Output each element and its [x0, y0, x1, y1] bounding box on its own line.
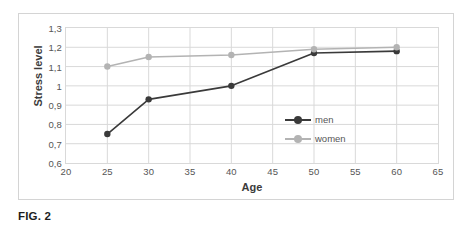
- legend-label-women: women: [315, 133, 346, 144]
- y-tick-label: 1,3: [48, 23, 62, 34]
- legend-item-women[interactable]: women: [285, 129, 369, 148]
- plot-area: [65, 27, 439, 164]
- x-tick-label: 40: [226, 166, 237, 177]
- x-tick-label: 35: [185, 166, 196, 177]
- series-lines: [66, 28, 438, 163]
- x-tick-label: 20: [61, 166, 72, 177]
- legend-dot-women: [294, 135, 302, 143]
- x-tick-label: 45: [267, 166, 278, 177]
- y-tick-label: 1,2: [48, 42, 62, 53]
- chart-legend: men women: [285, 110, 369, 148]
- y-tick-label: 1,1: [48, 61, 62, 72]
- plot-inner: [66, 28, 438, 163]
- x-tick-label: 65: [433, 166, 444, 177]
- x-axis-title: Age: [65, 181, 439, 193]
- y-tick-label: 1: [57, 80, 62, 91]
- figure-container: 0,60,70,80,911,11,21,3 Stress level 2025…: [0, 0, 466, 236]
- x-tick-label: 50: [309, 166, 320, 177]
- legend-marker-men: [285, 115, 311, 125]
- x-tick-label: 25: [102, 166, 113, 177]
- legend-dot-men: [294, 116, 302, 124]
- y-tick-label: 0,7: [48, 138, 62, 149]
- x-tick-label: 55: [350, 166, 361, 177]
- legend-item-men[interactable]: men: [285, 110, 369, 129]
- legend-label-men: men: [315, 114, 333, 125]
- y-tick-label: 0,8: [48, 119, 62, 130]
- x-axis-tick-labels: 20253035404550556065: [65, 166, 439, 180]
- x-tick-label: 60: [391, 166, 402, 177]
- chart-frame: 0,60,70,80,911,11,21,3 Stress level 2025…: [18, 13, 454, 200]
- legend-marker-women: [285, 134, 311, 144]
- y-tick-label: 0,9: [48, 100, 62, 111]
- x-tick-label: 30: [143, 166, 154, 177]
- figure-caption: FIG. 2: [18, 210, 51, 222]
- y-axis-title: Stress level: [32, 31, 44, 121]
